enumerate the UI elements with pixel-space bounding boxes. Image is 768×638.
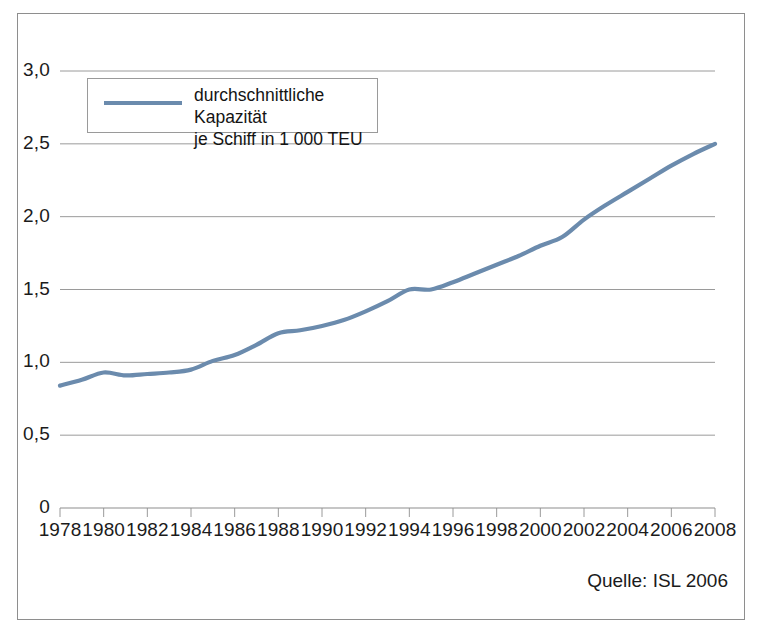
y-axis-tick-label: 2,5 bbox=[4, 132, 50, 154]
chart-figure: 00,51,01,52,02,53,0 19781980198219841986… bbox=[0, 0, 768, 638]
series-line-1 bbox=[60, 144, 715, 386]
y-axis-tick-label: 0 bbox=[4, 496, 50, 518]
data-series-group bbox=[60, 144, 715, 386]
chart-legend: durchschnittliche Kapazität je Schiff in… bbox=[87, 78, 378, 133]
source-attribution: Quelle: ISL 2006 bbox=[587, 570, 728, 592]
y-axis-tick-label: 1,0 bbox=[4, 350, 50, 372]
y-axis-tick-label: 1,5 bbox=[4, 278, 50, 300]
x-axis-ticks bbox=[60, 508, 715, 517]
y-axis-tick-label: 0,5 bbox=[4, 423, 50, 445]
legend-label-series-1: durchschnittliche Kapazität je Schiff in… bbox=[194, 84, 377, 150]
y-axis-tick-label: 3,0 bbox=[4, 59, 50, 81]
legend-swatch-series-1 bbox=[104, 101, 182, 105]
x-axis-tick-label: 2008 bbox=[685, 519, 745, 541]
gridlines bbox=[60, 71, 715, 508]
y-axis-tick-label: 2,0 bbox=[4, 205, 50, 227]
